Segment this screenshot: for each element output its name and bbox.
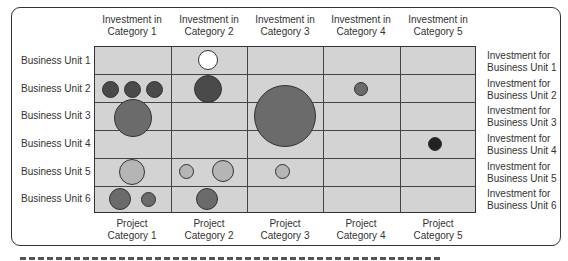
column-header-line: Category 5 [400,26,476,38]
column-footer-line: Project [171,218,247,230]
investment-bubble [198,50,218,70]
right-label-line: Business Unit 1 [487,62,556,74]
right-label-line: Business Unit 2 [487,90,556,102]
column-header-line: Category 4 [323,26,399,38]
column-footer-line: Category 5 [400,230,476,242]
investment-bubble [254,85,316,147]
investment-bubble [124,81,141,98]
right-label-line: Investment for [487,105,556,117]
column-footer-line: Project [323,218,399,230]
right-label-line: Investment for [487,188,556,200]
investment-bubble [194,75,222,103]
column-header-3: Investment in Category 3 [247,14,323,38]
figure-caption-clipped [20,255,560,261]
investment-bubble [179,164,194,179]
investment-bubble [114,99,152,137]
investment-bubble [354,82,368,96]
column-header-line: Investment in [323,14,399,26]
row-label-4: Business Unit 4 [21,138,90,150]
right-label-5: Investment for Business Unit 5 [487,161,556,184]
right-label-line: Business Unit 6 [487,200,556,212]
column-header-2: Investment in Category 2 [171,14,247,38]
right-label-6: Investment for Business Unit 6 [487,188,556,211]
column-footer-line: Project [400,218,476,230]
column-header-5: Investment in Category 5 [400,14,476,38]
column-footer-2: Project Category 2 [171,218,247,242]
column-footer-line: Project [247,218,323,230]
right-label-2: Investment for Business Unit 2 [487,78,556,101]
grid-divider [94,186,476,187]
column-header-line: Investment in [400,14,476,26]
investment-bubble [119,159,145,185]
right-label-line: Investment for [487,161,556,173]
investment-bubble [196,188,218,210]
right-label-line: Business Unit 5 [487,173,556,185]
column-footer-4: Project Category 4 [323,218,399,242]
column-footer-3: Project Category 3 [247,218,323,242]
investment-bubble [428,137,442,151]
row-label-3: Business Unit 3 [21,110,90,122]
column-footer-line: Category 2 [171,230,247,242]
column-header-line: Category 1 [94,26,170,38]
investment-bubble [275,164,290,179]
grid-divider [94,158,476,159]
column-footer-line: Category 4 [323,230,399,242]
column-footer-line: Category 1 [94,230,170,242]
column-header-4: Investment in Category 4 [323,14,399,38]
column-header-1: Investment in Category 1 [94,14,170,38]
grid-divider [94,74,476,75]
column-header-line: Investment in [94,14,170,26]
investment-bubble [109,188,131,210]
right-label-4: Investment for Business Unit 4 [487,133,556,156]
column-footer-line: Project [94,218,170,230]
column-footer-line: Category 3 [247,230,323,242]
investment-bubble [141,192,156,207]
row-label-1: Business Unit 1 [21,55,90,67]
column-header-line: Category 2 [171,26,247,38]
right-label-1: Investment for Business Unit 1 [487,50,556,73]
row-label-5: Business Unit 5 [21,166,90,178]
column-header-line: Investment in [247,14,323,26]
column-header-line: Category 3 [247,26,323,38]
column-footer-1: Project Category 1 [94,218,170,242]
row-label-6: Business Unit 6 [21,193,90,205]
column-footer-5: Project Category 5 [400,218,476,242]
row-label-2: Business Unit 2 [21,83,90,95]
investment-bubble [212,160,234,182]
right-label-line: Business Unit 4 [487,145,556,157]
right-label-line: Investment for [487,50,556,62]
right-label-line: Investment for [487,78,556,90]
right-label-3: Investment for Business Unit 3 [487,105,556,128]
investment-bubble [146,81,163,98]
investment-bubble [102,81,119,98]
column-header-line: Investment in [171,14,247,26]
right-label-line: Business Unit 3 [487,117,556,129]
right-label-line: Investment for [487,133,556,145]
